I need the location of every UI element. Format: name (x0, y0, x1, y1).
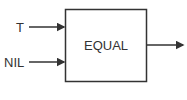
input-label-t: T (16, 21, 24, 34)
input-label-nil: NIL (4, 56, 24, 69)
block-label: EQUAL (84, 39, 128, 52)
